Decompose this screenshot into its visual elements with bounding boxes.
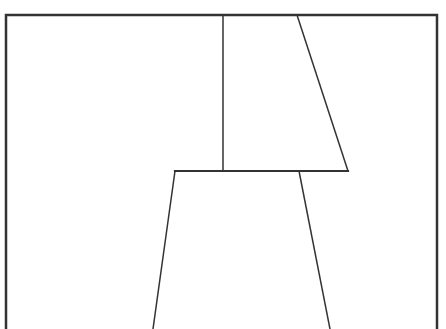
line-upper-slant — [297, 15, 348, 171]
line-lower-left-slant — [153, 171, 175, 329]
line-diagram — [0, 0, 446, 329]
line-lower-right-slant — [299, 171, 330, 329]
diagram-lines — [153, 15, 348, 329]
